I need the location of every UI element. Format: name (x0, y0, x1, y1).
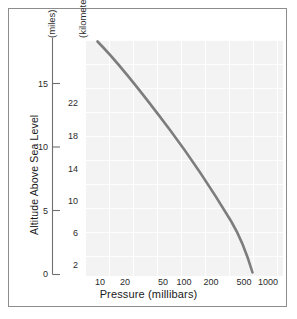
xtick-200: 200 (196, 277, 226, 287)
plot-area (85, 40, 283, 276)
xtick-100: 100 (169, 277, 199, 287)
x-axis-title: Pressure (millibars) (0, 288, 297, 300)
ytick-km-10: 10 (62, 196, 78, 206)
ytick-km-18: 18 (62, 131, 78, 141)
xtick-20: 20 (110, 277, 140, 287)
kilometers-unit-label: (kilometers) (77, 0, 88, 38)
ytick-miles-0: 0 (30, 269, 48, 279)
xtick-1000: 1000 (253, 277, 283, 287)
ytick-km-6: 6 (62, 228, 78, 238)
ytick-miles-5: 5 (30, 206, 48, 216)
chart-figure: (miles) (kilometers) Altitude Above Sea … (0, 0, 297, 319)
ytick-km-2: 2 (62, 260, 78, 270)
y-axis-title: Altitude Above Sea Level (28, 115, 40, 235)
ytick-miles-15: 15 (30, 79, 48, 89)
ytick-km-22: 22 (62, 98, 78, 108)
miles-unit-label: (miles) (46, 10, 57, 39)
ytick-km-14: 14 (62, 164, 78, 174)
ytick-miles-10: 10 (30, 142, 48, 152)
